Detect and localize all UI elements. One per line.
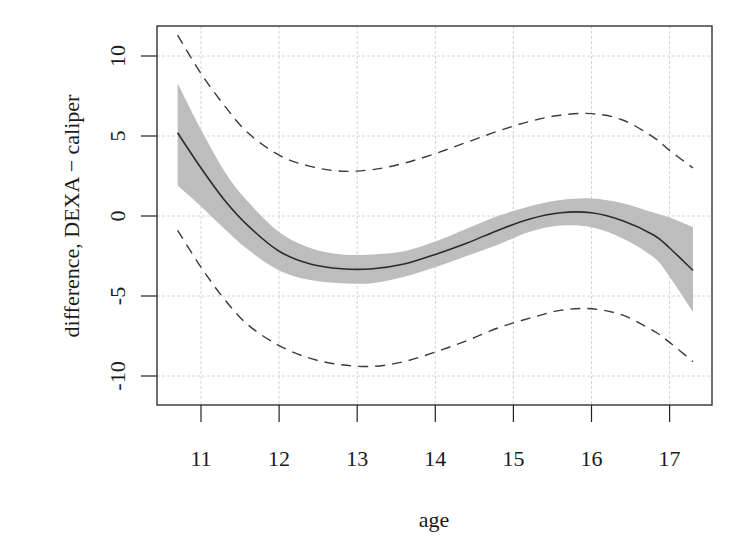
x-axis: 11121314151617 (190, 405, 680, 471)
x-tick-label: 15 (502, 446, 524, 471)
y-tick-label: 0 (105, 211, 130, 222)
y-axis-title: difference, DEXA − caliper (59, 94, 84, 338)
chart: 11121314151617 -10-50510 age difference,… (0, 0, 744, 556)
y-tick-label: -10 (105, 361, 130, 390)
y-tick-label: 5 (105, 131, 130, 142)
x-tick-label: 13 (346, 446, 368, 471)
x-axis-title: age (419, 507, 450, 532)
x-tick-label: 11 (190, 446, 211, 471)
y-axis: -10-50510 (105, 45, 157, 391)
x-tick-label: 12 (268, 446, 290, 471)
y-tick-label: -5 (105, 287, 130, 305)
x-tick-label: 14 (424, 446, 446, 471)
y-tick-label: 10 (105, 45, 130, 67)
x-tick-label: 17 (659, 446, 681, 471)
x-tick-label: 16 (581, 446, 603, 471)
